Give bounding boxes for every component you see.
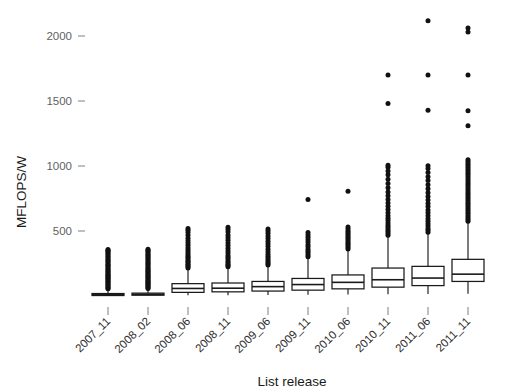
outlier-point [426, 73, 431, 78]
box-body [372, 268, 404, 287]
outlier-point [386, 181, 391, 186]
outlier-point [146, 247, 151, 252]
outlier-point [266, 227, 271, 232]
outlier-point [426, 108, 431, 113]
outlier-point [426, 163, 431, 168]
x-axis-title: List release [257, 374, 326, 389]
y-axis-title: MFLOPS/W [14, 156, 29, 228]
outlier-point [466, 73, 471, 78]
outlier-point [346, 225, 351, 230]
outlier-point [466, 157, 471, 162]
y-tick-label: 1500 [46, 95, 72, 107]
outlier-point [466, 25, 471, 30]
outlier-point [426, 18, 431, 23]
outlier-point [106, 247, 111, 252]
outlier-point [306, 197, 311, 202]
outlier-point [346, 189, 351, 194]
outlier-point [466, 123, 471, 128]
outlier-point [386, 163, 391, 168]
outlier-point [186, 226, 191, 231]
y-tick-label: 2000 [46, 30, 72, 42]
outlier-point [466, 108, 471, 113]
box-body [452, 259, 484, 281]
boxplot-chart: 500100015002000 2007_112008_022008_06200… [0, 0, 520, 392]
outlier-point [386, 101, 391, 106]
outlier-point [386, 185, 391, 190]
box-body [412, 266, 444, 285]
y-tick-label: 1000 [46, 160, 72, 172]
y-tick-label: 500 [53, 225, 72, 237]
outlier-point [426, 182, 431, 187]
outlier-point [306, 230, 311, 235]
outlier-point [226, 225, 231, 230]
outlier-point [386, 73, 391, 78]
outlier-point [386, 177, 391, 182]
